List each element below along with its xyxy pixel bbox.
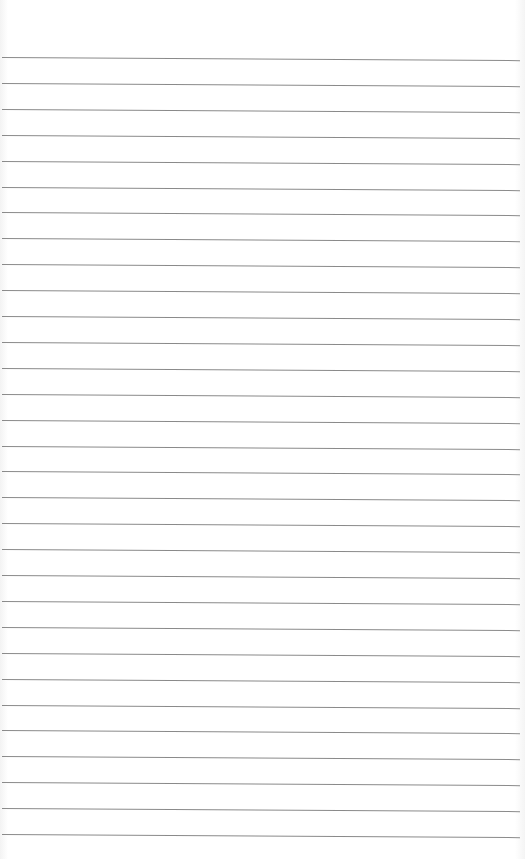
ruled-line (2, 808, 520, 812)
ruled-line (2, 161, 520, 165)
ruled-line (2, 238, 520, 242)
ruled-line (2, 756, 520, 760)
ruled-line (2, 316, 520, 320)
ruled-line (2, 109, 520, 113)
ruled-line (2, 575, 520, 579)
lined-paper (0, 0, 525, 859)
ruled-line (2, 394, 520, 398)
ruled-line (2, 523, 520, 527)
ruled-line (2, 679, 520, 683)
ruled-line (2, 627, 520, 631)
ruled-line (2, 187, 520, 191)
ruled-line (2, 601, 520, 605)
ruled-line (2, 705, 520, 709)
ruled-line (2, 420, 520, 424)
ruled-line (2, 342, 520, 346)
ruled-line (2, 446, 520, 450)
ruled-line (2, 135, 520, 139)
ruled-line (2, 497, 520, 501)
ruled-line (2, 834, 520, 838)
ruled-line (2, 471, 520, 475)
ruled-line (2, 83, 520, 87)
ruled-line (2, 264, 520, 268)
ruled-line (2, 57, 520, 61)
ruled-line (2, 290, 520, 294)
ruled-line (2, 212, 520, 216)
ruled-line (2, 653, 520, 657)
ruled-line (2, 368, 520, 372)
ruled-line (2, 782, 520, 786)
ruled-line (2, 730, 520, 734)
ruled-line (2, 549, 520, 553)
